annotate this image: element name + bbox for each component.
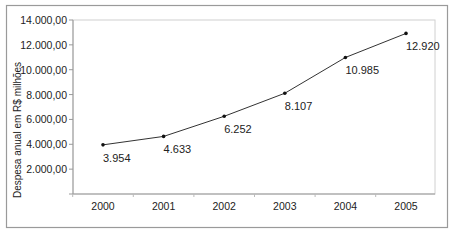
- data-point: [101, 143, 105, 147]
- data-label: 6.252: [224, 123, 252, 135]
- y-tick-label: 6.000,00: [26, 113, 67, 125]
- line-chart: 2.000,004.000,006.000,008.000,0010.000,0…: [0, 0, 453, 233]
- y-tick-label: 2.000,00: [26, 163, 67, 175]
- y-tick-label: 10.000,00: [20, 64, 67, 76]
- x-tick-label: 2000: [91, 200, 115, 212]
- data-label: 4.633: [164, 143, 192, 155]
- data-point: [404, 32, 408, 36]
- x-tick-label: 2005: [394, 200, 418, 212]
- data-label: 10.985: [345, 64, 379, 76]
- data-point: [283, 91, 287, 95]
- data-label: 3.954: [103, 152, 131, 164]
- y-tick-label: 8.000,00: [26, 89, 67, 101]
- data-label: 12.920: [406, 40, 440, 52]
- x-tick-label: 2001: [152, 200, 176, 212]
- y-tick-label: 4.000,00: [26, 138, 67, 150]
- data-point: [222, 114, 226, 118]
- data-point: [344, 56, 348, 60]
- y-tick-label: 14.000,00: [20, 14, 67, 26]
- y-tick-label: 12.000,00: [20, 39, 67, 51]
- data-label: 8.107: [285, 100, 313, 112]
- y-axis-title: Despesa anual em R$ milhões: [12, 62, 23, 198]
- x-tick-label: 2004: [334, 200, 358, 212]
- data-point: [162, 135, 166, 139]
- x-tick-label: 2002: [213, 200, 237, 212]
- x-tick-label: 2003: [273, 200, 297, 212]
